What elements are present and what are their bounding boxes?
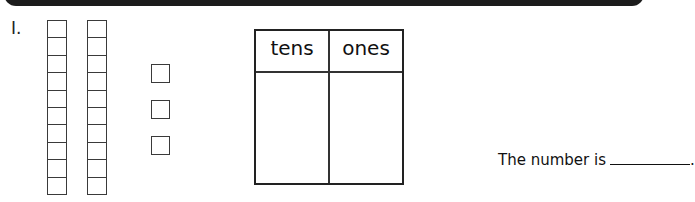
rod-cell bbox=[48, 91, 66, 108]
ones-cube-2 bbox=[151, 100, 170, 119]
ones-header: ones bbox=[330, 36, 402, 60]
tens-rod-1 bbox=[47, 20, 67, 195]
rod-cell bbox=[88, 178, 106, 194]
answer-line: The number is. bbox=[498, 150, 695, 169]
rod-cell bbox=[48, 73, 66, 90]
rod-cell bbox=[48, 38, 66, 55]
tens-rod-2 bbox=[87, 20, 107, 195]
rod-cell bbox=[88, 125, 106, 142]
answer-period: . bbox=[690, 151, 695, 169]
rod-cell bbox=[88, 56, 106, 73]
rod-cell bbox=[88, 108, 106, 125]
place-value-table: tens ones bbox=[254, 29, 404, 185]
rod-cell bbox=[88, 21, 106, 38]
rod-cell bbox=[88, 91, 106, 108]
ones-cube-3 bbox=[151, 136, 170, 155]
header-bar bbox=[4, 0, 644, 6]
rod-cell bbox=[48, 143, 66, 160]
answer-prompt: The number is bbox=[498, 151, 606, 169]
rod-cell bbox=[88, 160, 106, 177]
tens-answer-cell[interactable] bbox=[256, 73, 328, 183]
rod-cell bbox=[48, 21, 66, 38]
tens-header: tens bbox=[256, 36, 328, 60]
ones-cube-1 bbox=[151, 64, 170, 83]
rod-cell bbox=[48, 125, 66, 142]
rod-cell bbox=[48, 160, 66, 177]
answer-blank[interactable] bbox=[610, 150, 690, 165]
rod-cell bbox=[88, 143, 106, 160]
rod-cell bbox=[48, 178, 66, 194]
rod-cell bbox=[48, 108, 66, 125]
rod-cell bbox=[88, 73, 106, 90]
rod-cell bbox=[88, 38, 106, 55]
ones-answer-cell[interactable] bbox=[330, 73, 402, 183]
rod-cell bbox=[48, 56, 66, 73]
problem-number: I. bbox=[11, 18, 21, 38]
